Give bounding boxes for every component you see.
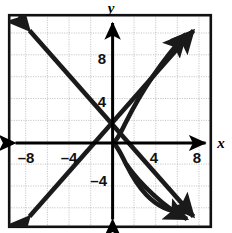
x-axis-label: x bbox=[216, 135, 225, 151]
x-tick-label-neg4: –4 bbox=[61, 149, 78, 166]
y-tick-label-8: 8 bbox=[98, 50, 106, 67]
coordinate-plane: y x 8 4 –4 –8 –4 4 8 bbox=[0, 0, 232, 233]
y-tick-label-neg4: –4 bbox=[90, 172, 107, 189]
y-tick-label-4: 4 bbox=[98, 93, 107, 110]
x-tick-label-8: 8 bbox=[193, 149, 201, 166]
y-axis-label: y bbox=[106, 0, 115, 16]
graph-figure: y x 8 4 –4 –8 –4 4 8 bbox=[0, 0, 232, 233]
x-tick-label-4: 4 bbox=[150, 149, 159, 166]
x-tick-label-neg8: –8 bbox=[18, 149, 35, 166]
